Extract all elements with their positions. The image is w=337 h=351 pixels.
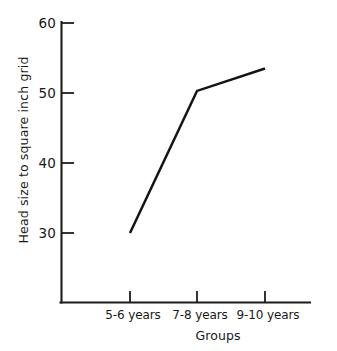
y-tick-label-30: 30 <box>38 225 56 241</box>
line-chart-canvas: 60 50 40 30 5-6 years 7-8 years 9-10 yea… <box>0 0 337 351</box>
y-axis-title: Head size to square inch grid <box>16 57 31 244</box>
x-tick-label-0: 5-6 years <box>105 308 161 322</box>
x-axis-title: Groups <box>195 328 240 343</box>
y-tick-label-50: 50 <box>38 85 56 101</box>
x-tick-label-1: 7-8 years <box>172 308 228 322</box>
y-tick-label-40: 40 <box>38 155 56 171</box>
y-tick-label-60: 60 <box>38 15 56 31</box>
x-tick-label-2: 9-10 years <box>236 308 299 322</box>
data-series-line <box>130 69 265 234</box>
chart-figure: 60 50 40 30 5-6 years 7-8 years 9-10 yea… <box>0 0 337 351</box>
